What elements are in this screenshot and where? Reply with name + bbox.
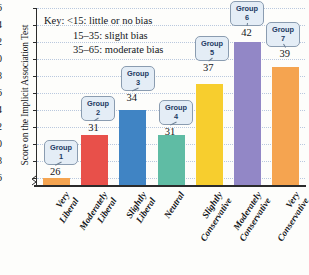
bar[interactable] bbox=[158, 135, 185, 186]
y-tick-label: 34 bbox=[0, 104, 2, 115]
y-tick-mark bbox=[33, 144, 37, 145]
callout-title: Group bbox=[160, 103, 192, 112]
bar[interactable] bbox=[81, 135, 108, 186]
x-axis-line bbox=[34, 185, 306, 187]
bar[interactable] bbox=[119, 110, 146, 186]
y-tick-label: 32 bbox=[0, 121, 2, 132]
callout-number: 6 bbox=[231, 13, 263, 22]
y-tick-mark bbox=[33, 8, 37, 9]
y-axis-title: Score on the Implicit Association Test bbox=[20, 5, 34, 185]
y-tick-label: 26 bbox=[0, 172, 2, 183]
callout-title: Group bbox=[122, 69, 154, 78]
bar-value-label: 31 bbox=[153, 126, 187, 137]
y-tick-label: 46 bbox=[0, 2, 2, 13]
bar-value-label: 31 bbox=[76, 122, 110, 133]
callout-title: Group bbox=[231, 4, 263, 13]
callout-number: 1 bbox=[45, 152, 77, 161]
gridline bbox=[37, 76, 305, 77]
bar[interactable] bbox=[196, 84, 223, 186]
bar[interactable] bbox=[234, 42, 261, 186]
y-tick-label: 44 bbox=[0, 19, 2, 30]
y-tick-mark bbox=[33, 42, 37, 43]
y-tick-mark bbox=[33, 59, 37, 60]
callout-number: 4 bbox=[160, 112, 192, 121]
bar-value-label: 26 bbox=[38, 166, 72, 177]
y-tick-mark bbox=[33, 127, 37, 128]
bar[interactable] bbox=[272, 67, 299, 186]
bar-value-label: 39 bbox=[268, 48, 302, 59]
key-line-2: 15–35: slight bias bbox=[44, 29, 202, 44]
y-tick-label: 38 bbox=[0, 70, 2, 81]
key-legend: Key: <15: little or no bias 15–35: sligh… bbox=[44, 14, 202, 58]
gridline bbox=[37, 59, 305, 60]
y-tick-label: 42 bbox=[0, 36, 2, 47]
callout-title: Group bbox=[82, 99, 114, 108]
y-tick-mark bbox=[33, 76, 37, 77]
y-tick-mark bbox=[33, 161, 37, 162]
y-tick-mark bbox=[33, 25, 37, 26]
callout-number: 3 bbox=[122, 78, 154, 87]
gridline bbox=[37, 8, 305, 9]
key-line-1: Key: <15: little or no bias bbox=[44, 14, 202, 29]
callout-number: 2 bbox=[82, 108, 114, 117]
bar-value-label: 37 bbox=[191, 62, 225, 73]
callout-number: 7 bbox=[267, 34, 299, 43]
callout-title: Group bbox=[45, 143, 77, 152]
gridline bbox=[37, 93, 305, 94]
bar-value-label: 42 bbox=[230, 27, 264, 38]
key-line-3: 35–65: moderate bias bbox=[44, 43, 202, 58]
y-tick-label: 28 bbox=[0, 155, 2, 166]
y-tick-mark bbox=[33, 93, 37, 94]
callout-title: Group bbox=[267, 25, 299, 34]
y-tick-label: 30 bbox=[0, 138, 2, 149]
y-tick-mark bbox=[33, 110, 37, 111]
bar-chart: Score on the Implicit Association Test 2… bbox=[0, 0, 309, 275]
y-tick-label: 40 bbox=[0, 53, 2, 64]
bar-value-label: 34 bbox=[115, 92, 149, 103]
y-tick-label: 36 bbox=[0, 87, 2, 98]
